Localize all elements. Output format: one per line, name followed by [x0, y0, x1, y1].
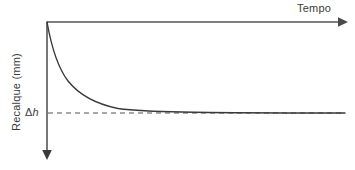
settlement-time-curve-figure: Tempo Recalque (mm) Δh: [0, 0, 355, 170]
settlement-curve: [47, 22, 345, 113]
arrow-down-icon: [42, 150, 52, 160]
delta-symbol: Δ: [25, 106, 33, 118]
asymptote-delta-h-label: Δh: [25, 106, 39, 118]
plot-canvas: [0, 0, 355, 170]
y-axis-title: Recalque (mm): [10, 40, 22, 144]
arrow-right-icon: [338, 17, 348, 27]
x-axis-title: Tempo: [297, 2, 331, 14]
asymptote-variable: h: [33, 106, 39, 118]
